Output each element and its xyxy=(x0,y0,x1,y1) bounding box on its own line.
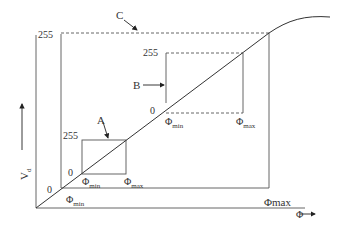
box-c-label: C xyxy=(116,10,123,20)
box-b-phi-max: Φmax xyxy=(236,117,255,128)
box-b-label: B xyxy=(133,80,140,90)
outer-top-value: 255 xyxy=(38,30,53,40)
transfer-curve xyxy=(36,17,330,208)
box-b-phi-min: Φmin xyxy=(165,117,183,128)
x-axis-label: Φ xyxy=(296,210,303,220)
box-a-zero-value: 0 xyxy=(68,168,73,178)
box-a-phi-min: Φmin xyxy=(82,177,100,188)
arrow-c xyxy=(124,20,137,30)
box-a-label: A xyxy=(97,115,105,125)
box-a-phi-max: Φmax xyxy=(124,177,143,188)
y-axis-label: Vd xyxy=(18,169,30,180)
box-a-top-value: 255 xyxy=(63,131,78,141)
box-b-top-value: 255 xyxy=(143,48,158,58)
outer-phi-min: Φmin xyxy=(66,195,84,206)
outer-phi-max: Φmax xyxy=(264,197,291,207)
outer-zero-value: 0 xyxy=(47,185,52,195)
box-b-zero-value: 0 xyxy=(150,106,155,116)
